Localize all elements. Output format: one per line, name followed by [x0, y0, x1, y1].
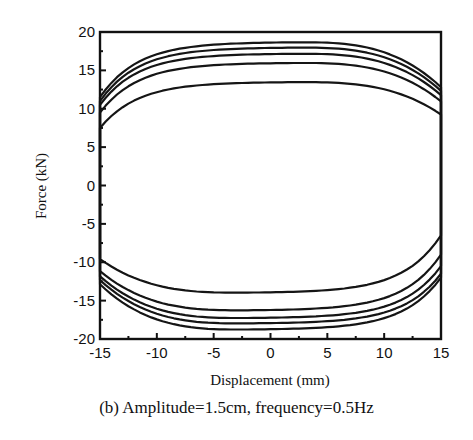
y-tick-label: -5: [82, 215, 95, 232]
x-axis-label: Displacement (mm): [210, 372, 330, 389]
y-tick-label: -10: [73, 253, 95, 270]
y-axis-label: Force (kN): [33, 153, 50, 219]
x-axis-tick-labels: -15-10-5051015: [89, 344, 449, 361]
x-tick-label: -10: [146, 344, 168, 361]
figure-caption: (b) Amplitude=1.5cm, frequency=0.5Hz: [0, 398, 473, 418]
hysteresis-loops: [100, 42, 441, 329]
x-tick-label: 15: [433, 344, 450, 361]
x-tick-label: -15: [89, 344, 111, 361]
hysteresis-loop: [100, 63, 441, 310]
y-tick-label: 20: [78, 23, 95, 40]
y-tick-label: -15: [73, 292, 95, 309]
x-tick-label: 0: [266, 344, 274, 361]
x-tick-label: 10: [376, 344, 393, 361]
y-tick-label: 15: [78, 61, 95, 78]
y-tick-label: 10: [78, 100, 95, 117]
y-tick-label: 5: [87, 138, 95, 155]
hysteresis-loop: [100, 48, 441, 324]
hysteresis-loop: [100, 82, 441, 293]
x-tick-label: 5: [323, 344, 331, 361]
y-tick-label: 0: [87, 177, 95, 194]
hysteresis-chart: 20151050-5-10-15-20 -15-10-5051015 Force…: [0, 0, 473, 440]
y-axis-tick-labels: 20151050-5-10-15-20: [73, 23, 95, 347]
hysteresis-loop: [100, 42, 441, 329]
x-tick-label: -5: [207, 344, 220, 361]
